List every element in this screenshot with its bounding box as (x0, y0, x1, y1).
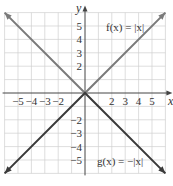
g-function-label: g(x) = −|x| (97, 155, 143, 168)
x-tick-label: −5 (12, 95, 24, 107)
x-axis-label: x (167, 94, 173, 108)
x-tick-label: −2 (52, 95, 64, 107)
x-tick-label: 5 (149, 95, 155, 107)
x-tick-label: −3 (39, 95, 51, 107)
y-axis-arrow-icon (83, 6, 88, 12)
x-tick-label: 4 (136, 95, 142, 107)
y-tick-label: 5 (77, 20, 83, 32)
y-tick-label: −5 (70, 154, 82, 166)
y-tick-label: −4 (70, 141, 82, 153)
chart: −5−4−3−223455432−2−3−4−5 y x f(x) = |x| … (0, 0, 173, 186)
x-tick-label: 2 (109, 95, 115, 107)
y-axis-label: y (75, 1, 82, 15)
f-function-label: f(x) = |x| (106, 21, 144, 34)
y-tick-label: 4 (77, 33, 83, 45)
y-tick-label: −3 (70, 127, 82, 139)
x-tick-label: 3 (122, 95, 128, 107)
y-tick-label: 3 (77, 47, 83, 59)
x-tick-label: −4 (26, 95, 38, 107)
y-tick-label: −2 (70, 114, 82, 126)
y-tick-label: 2 (77, 60, 83, 72)
